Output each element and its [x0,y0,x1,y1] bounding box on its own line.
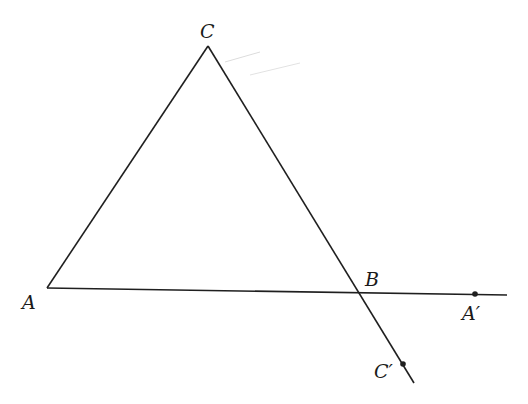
label-b: B [364,268,379,290]
point-a-prime-dot [472,291,478,297]
triangle-diagram: C A B A′ C′ [0,0,528,404]
segment-ab-extended [47,288,507,295]
scan-artifact [225,52,260,62]
label-c-prime: C′ [374,360,394,382]
segment-ac [47,46,208,288]
label-c: C [200,20,215,42]
label-a: A [20,291,36,313]
scan-artifact [250,63,300,75]
segment-cb-extended [208,46,414,383]
point-c-prime-dot [400,361,406,367]
label-a-prime: A′ [460,302,481,324]
